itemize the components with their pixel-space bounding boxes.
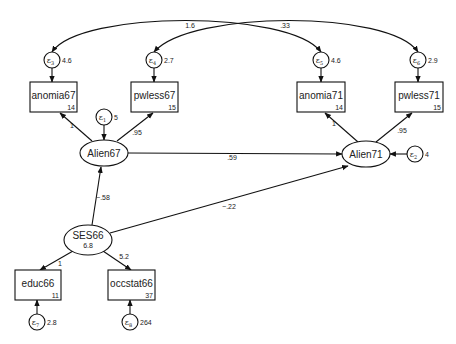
error-variance: 5 — [114, 114, 118, 121]
path-coefficient: 1 — [332, 120, 336, 127]
observed-label: pwless71 — [398, 90, 440, 101]
intercept-value: 15 — [433, 104, 441, 111]
error-variance: 2.7 — [164, 57, 174, 64]
path-arrow-SES66-Alien71 — [110, 166, 348, 233]
observed-label: educ66 — [22, 278, 55, 289]
observed-label: anomia71 — [299, 90, 343, 101]
error-e6[interactable]: ε62.9 — [410, 52, 438, 68]
covariance-coefficient: .33 — [280, 22, 290, 29]
sem-path-diagram: anomia6714pwless6715anomia7114pwless7115… — [0, 0, 456, 344]
observed-pwless71[interactable]: pwless7115 — [395, 82, 443, 112]
path-coefficient: .59 — [227, 154, 237, 161]
latent-label: SES66 — [72, 230, 104, 241]
error-e4[interactable]: ε42.7 — [146, 52, 174, 68]
latent-Alien67[interactable]: Alien67 — [80, 140, 128, 166]
observed-label: anomia67 — [32, 90, 76, 101]
path-coefficient: −.58 — [96, 194, 110, 201]
path-arrow-Alien67-pwless67 — [117, 113, 153, 141]
path-coefficient: −.22 — [222, 203, 236, 210]
path-coefficient: .95 — [132, 129, 142, 136]
error-e2[interactable]: ε24 — [407, 146, 429, 162]
observed-label: pwless67 — [134, 90, 176, 101]
latent-mean: 6.8 — [83, 242, 93, 249]
intercept-value: 11 — [52, 292, 59, 299]
latent-SES66[interactable]: SES666.8 — [64, 225, 112, 255]
error-e8[interactable]: ε8264 — [122, 314, 152, 330]
error-variance: 4.6 — [62, 57, 72, 64]
path-coefficient: .95 — [397, 127, 407, 134]
latent-label: Alien71 — [349, 149, 383, 160]
observed-anomia67[interactable]: anomia6714 — [30, 82, 77, 112]
error-variance: 2.9 — [428, 57, 438, 64]
error-variance: 264 — [140, 319, 152, 326]
path-coefficient: 5.2 — [119, 253, 129, 260]
observed-occstat66[interactable]: occstat6637 — [108, 270, 155, 300]
path-coefficient: 1 — [58, 260, 62, 267]
latent-label: Alien67 — [87, 148, 121, 159]
observed-pwless67[interactable]: pwless6715 — [131, 82, 178, 112]
error-variance: 4.6 — [331, 57, 341, 64]
latent-Alien71[interactable]: Alien71 — [342, 141, 390, 167]
error-e5[interactable]: ε54.6 — [313, 52, 341, 68]
path-coefficient: 1 — [70, 122, 74, 129]
error-e1[interactable]: ε15 — [96, 109, 118, 125]
error-variance: 4 — [425, 151, 429, 158]
observed-label: occstat66 — [110, 278, 153, 289]
path-arrow-Alien71-anomia71 — [325, 113, 358, 142]
error-e3[interactable]: ε34.6 — [44, 52, 72, 68]
path-arrow-Alien67-anomia67 — [60, 113, 92, 141]
covariance-coefficient: 1.6 — [185, 22, 195, 29]
observed-anomia71[interactable]: anomia7114 — [297, 82, 345, 112]
intercept-value: 15 — [168, 104, 176, 111]
path-arrow-SES66-educ66 — [40, 251, 73, 270]
intercept-value: 14 — [67, 104, 75, 111]
intercept-value: 14 — [335, 104, 343, 111]
observed-educ66[interactable]: educ6611 — [15, 270, 61, 300]
error-e7[interactable]: ε72.8 — [29, 314, 57, 330]
intercept-value: 37 — [145, 292, 153, 299]
error-variance: 2.8 — [47, 319, 57, 326]
